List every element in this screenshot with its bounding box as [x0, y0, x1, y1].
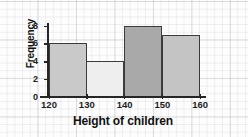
bar-150-160 — [162, 35, 200, 98]
y-axis-title: Frequency — [25, 8, 36, 80]
x-tick-label-120: 120 — [36, 100, 62, 110]
histogram-plot-area: 8 6 4 2 0 120 130 140 150 160 Frequency … — [0, 0, 248, 137]
x-tick-label-150: 150 — [149, 100, 175, 110]
x-tick-label-130: 130 — [74, 100, 100, 110]
y-tick-6 — [44, 43, 49, 44]
x-tick-130 — [86, 94, 87, 99]
y-tick-8 — [44, 26, 49, 27]
y-tick-4 — [44, 61, 49, 62]
bar-130-140 — [86, 61, 124, 98]
x-tick-label-140: 140 — [112, 100, 138, 110]
x-tick-120 — [49, 94, 50, 99]
bar-120-130 — [49, 43, 87, 98]
histogram-screenshot: 8 6 4 2 0 120 130 140 150 160 Frequency … — [0, 0, 248, 137]
x-tick-label-160: 160 — [187, 100, 213, 110]
bar-140-150 — [124, 26, 162, 98]
x-axis-title: Height of children — [40, 114, 206, 128]
x-tick-160 — [200, 94, 201, 99]
x-tick-140 — [124, 94, 125, 99]
y-tick-2 — [44, 79, 49, 80]
x-tick-150 — [162, 94, 163, 99]
x-axis-line — [40, 96, 206, 98]
